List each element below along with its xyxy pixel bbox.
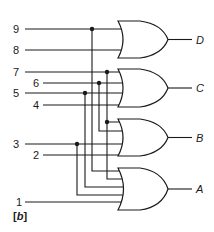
input-label-6: 6 (33, 77, 39, 89)
input-label-5: 5 (13, 87, 19, 99)
output-wires (168, 40, 192, 190)
or-gate-shape (118, 119, 168, 156)
junction-dot (90, 27, 94, 31)
input-label-4: 4 (33, 99, 39, 111)
or-gate-shape (118, 168, 168, 210)
figure-caption: [b] (13, 210, 27, 222)
input-label-7: 7 (13, 66, 19, 78)
junction-dot (105, 120, 109, 124)
or-gate-A (118, 168, 168, 210)
output-label-B: B (196, 132, 203, 144)
logic-circuit-diagram: 9 8 7 6 5 4 3 2 1 (0, 0, 214, 232)
input-label-2: 2 (33, 149, 39, 161)
or-gate-D (118, 21, 168, 58)
output-label-A: A (195, 183, 203, 195)
junction-dot (75, 142, 79, 146)
junction-dot (97, 81, 101, 85)
junction-dot (83, 91, 87, 95)
input-label-3: 3 (13, 138, 19, 150)
output-label-D: D (196, 34, 204, 46)
or-gate-C (118, 69, 168, 107)
input-label-9: 9 (13, 23, 19, 35)
junction-dot (105, 70, 109, 74)
or-gate-shape (118, 69, 168, 107)
or-gate-B (118, 119, 168, 156)
output-label-C: C (196, 82, 204, 94)
or-gate-shape (118, 21, 168, 58)
input-label-1: 1 (16, 196, 22, 208)
input-wires (25, 29, 127, 202)
input-label-8: 8 (13, 44, 19, 56)
